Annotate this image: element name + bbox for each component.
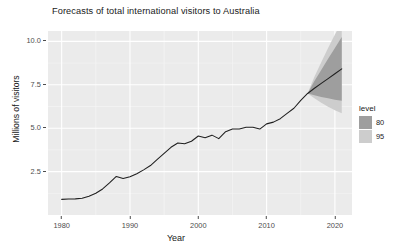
grid-minor (48, 31, 352, 215)
y-tick-10.0: 10.0 (26, 36, 46, 45)
legend-swatch-95 (359, 130, 372, 143)
x-tick-mark (129, 216, 130, 219)
legend-item-80[interactable]: 80 (359, 116, 397, 129)
x-axis-title-label: Year (167, 233, 185, 243)
y-tick-mark (43, 40, 46, 41)
legend-swatch-80 (359, 116, 372, 129)
y-tick-7.5: 7.5 (31, 80, 46, 89)
y-tick-label: 2.5 (31, 167, 41, 176)
x-tick-1980: 1980 (53, 216, 69, 230)
y-tick-label: 10.0 (26, 36, 40, 45)
x-axis-title: Year (0, 233, 398, 243)
x-tick-label: 2000 (190, 221, 206, 230)
y-tick-2.5: 2.5 (31, 167, 46, 176)
x-tick-2000: 2000 (190, 216, 206, 230)
legend-label-80: 80 (376, 118, 384, 127)
x-tick-label: 1990 (122, 221, 138, 230)
legend-title: level (359, 104, 397, 113)
x-tick-label: 2020 (327, 221, 343, 230)
y-tick-5.0: 5.0 (31, 123, 46, 132)
x-tick-2020: 2020 (327, 216, 343, 230)
legend: level 80 95 (359, 104, 397, 144)
y-tick-mark (43, 84, 46, 85)
x-tick-label: 2010 (258, 221, 274, 230)
x-tick-label: 1980 (53, 221, 69, 230)
plot-panel (48, 31, 352, 215)
y-tick-mark (43, 171, 46, 172)
x-tick-2010: 2010 (258, 216, 274, 230)
historical-line (62, 93, 308, 199)
y-tick-label: 7.5 (31, 80, 41, 89)
ribbon-80 (308, 37, 342, 101)
x-tick-mark (334, 216, 335, 219)
legend-item-95[interactable]: 95 (359, 130, 397, 143)
grid-major (48, 31, 352, 215)
x-tick-mark (266, 216, 267, 219)
plot-canvas (48, 31, 352, 215)
y-axis-title: Millions of visitors (11, 49, 21, 169)
x-tick-mark (198, 216, 199, 219)
y-tick-label: 5.0 (31, 123, 41, 132)
legend-label-95: 95 (376, 132, 384, 141)
chart-title: Forecasts of total international visitor… (52, 6, 260, 16)
x-tick-1990: 1990 (122, 216, 138, 230)
y-tick-mark (43, 127, 46, 128)
chart-root: Forecasts of total international visitor… (0, 0, 398, 252)
x-tick-mark (61, 216, 62, 219)
